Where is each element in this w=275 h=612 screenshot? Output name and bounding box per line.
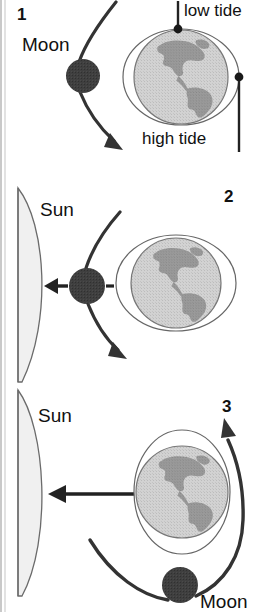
high-tide-label: high tide bbox=[142, 130, 206, 147]
panel2-sun-label: Sun bbox=[40, 200, 74, 219]
tide-diagram-figure: 1 Moon low tide high tide 2 Sun 3 Sun Mo… bbox=[0, 0, 275, 612]
diagram-canvas bbox=[0, 0, 275, 612]
gravity-arrow-to-sun bbox=[44, 278, 68, 294]
sun-limb bbox=[18, 188, 42, 382]
panel-number-3: 3 bbox=[222, 398, 231, 415]
panel1-moon-label: Moon bbox=[22, 35, 70, 54]
earth-globe bbox=[131, 238, 221, 328]
gravity-arrow-to-sun bbox=[48, 485, 138, 503]
moon-disc bbox=[69, 268, 105, 304]
panel3-sun-label: Sun bbox=[38, 406, 72, 425]
low-tide-label: low tide bbox=[184, 2, 242, 19]
low-tide-marker bbox=[174, 1, 183, 33]
earth-globe bbox=[136, 446, 228, 538]
panel3-moon-label: Moon bbox=[200, 592, 248, 611]
moon-disc bbox=[66, 59, 100, 93]
moon-disc bbox=[162, 567, 198, 603]
panel-number-1: 1 bbox=[17, 6, 26, 23]
earth-globe bbox=[134, 30, 228, 124]
panel-number-2: 2 bbox=[224, 188, 233, 205]
